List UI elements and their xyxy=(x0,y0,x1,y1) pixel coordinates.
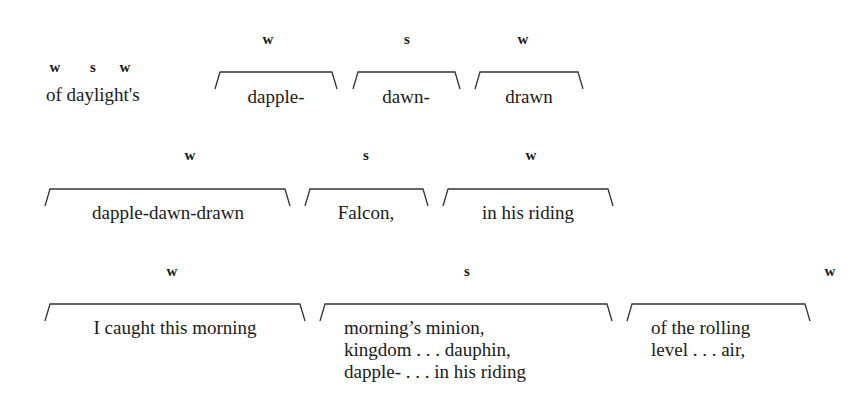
prefix-text: of daylight's xyxy=(46,84,140,106)
group-text: drawn xyxy=(505,86,552,108)
stress-label: w xyxy=(518,32,529,47)
group-text: dawn- xyxy=(382,86,429,108)
stress-label: s xyxy=(363,148,369,163)
prefix-stress-mark: s xyxy=(90,60,96,75)
stress-label: w xyxy=(825,264,836,279)
stress-label: w xyxy=(263,32,274,47)
group-text-line: kingdom . . . dauphin, xyxy=(344,339,511,361)
stress-label: w xyxy=(526,148,537,163)
group-text-line: level . . . air, xyxy=(651,339,745,361)
stress-label: w xyxy=(185,148,196,163)
group-text: Falcon, xyxy=(338,202,394,224)
group-text: in his riding xyxy=(482,202,574,224)
stress-label: w xyxy=(167,264,178,279)
group-text: dapple- xyxy=(248,86,305,108)
group-text-line: of the rolling xyxy=(651,317,750,339)
stress-label: s xyxy=(464,264,470,279)
stress-label: s xyxy=(404,32,410,47)
group-text: I caught this morning xyxy=(93,317,256,339)
prefix-stress-mark: w xyxy=(120,60,131,75)
prefix-stress-mark: w xyxy=(50,60,61,75)
group-text-line: dapple- . . . in his riding xyxy=(344,361,526,383)
group-text: dapple-dawn-drawn xyxy=(92,202,244,224)
group-text-line: morning’s minion, xyxy=(344,317,484,339)
